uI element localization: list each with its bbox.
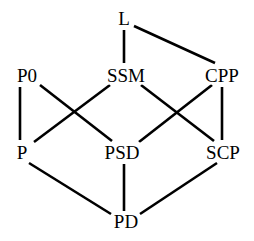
lattice-node-scp: SCP (205, 143, 241, 162)
lattice-edges-layer (0, 0, 254, 241)
lattice-edge-p0-psd (40, 85, 112, 141)
lattice-node-p: P (16, 143, 29, 162)
lattice-edge-cpp-psd (139, 85, 212, 142)
edge-group (20, 26, 222, 214)
lattice-edge-l-cpp (134, 26, 215, 63)
lattice-node-l: L (117, 9, 131, 28)
lattice-edge-scp-pd (140, 163, 217, 214)
hasse-diagram-figure: LP0SSMCPPPPSDSCPPD (0, 0, 254, 241)
lattice-edge-p-pd (29, 163, 111, 214)
lattice-node-psd: PSD (104, 143, 141, 162)
lattice-node-p0: P0 (16, 66, 38, 85)
lattice-node-pd: PD (113, 212, 139, 231)
lattice-node-cpp: CPP (204, 66, 240, 85)
lattice-edge-ssm-p (34, 85, 110, 142)
lattice-node-ssm: SSM (106, 66, 146, 85)
